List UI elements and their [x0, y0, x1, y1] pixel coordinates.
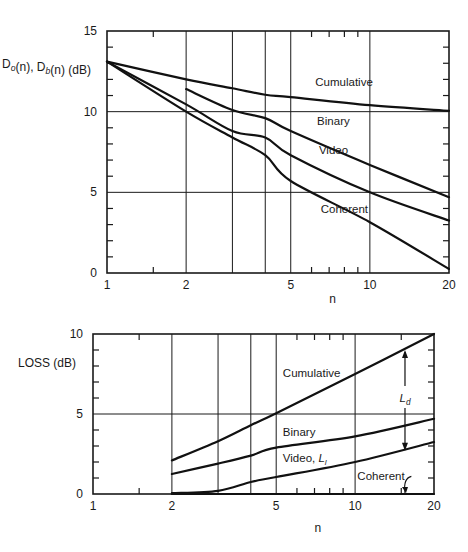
curve-label: Coherent	[321, 203, 369, 215]
x-tick-label: 5	[287, 278, 294, 292]
series-video	[107, 62, 449, 221]
x-tick-label: 2	[169, 499, 176, 513]
x-axis-label: n	[315, 521, 322, 535]
curve-label: Video	[319, 144, 348, 156]
x-tick-label: 1	[104, 278, 111, 292]
series-video-l-l	[172, 442, 434, 493]
x-tick-label: 10	[348, 499, 362, 513]
x-tick-label: 10	[363, 278, 377, 292]
series-cumulative	[107, 62, 449, 111]
y-tick-label: 15	[84, 24, 98, 38]
y-tick-label: 10	[70, 327, 84, 341]
chart-figure: 1251020051015nDo(n), Db(n) (dB)Cumulativ…	[0, 0, 468, 552]
x-tick-label: 5	[273, 499, 280, 513]
x-tick-label: 2	[183, 278, 190, 292]
plot-frame	[107, 31, 449, 273]
x-tick-label: 1	[90, 499, 97, 513]
curve-label: Binary	[317, 115, 350, 127]
y-tick-label: 5	[76, 407, 83, 421]
y-axis-label: LOSS (dB)	[18, 356, 76, 370]
y-tick-label: 10	[84, 105, 98, 119]
curve-label: Video, Ll	[283, 452, 327, 467]
curve-label: Cumulative	[315, 76, 373, 88]
figure: 1251020051015nDo(n), Db(n) (dB)Cumulativ…	[0, 0, 468, 552]
arrow-up-icon	[402, 350, 408, 358]
series-binary	[186, 89, 449, 197]
x-axis-label: n	[329, 292, 336, 306]
y-tick-label: 0	[90, 266, 97, 280]
y-tick-label: 0	[76, 487, 83, 501]
x-tick-label: 20	[442, 278, 456, 292]
chart-loss: 12510200510nLOSS (dB)CumulativeBinaryVid…	[18, 327, 441, 535]
y-tick-label: 5	[90, 185, 97, 199]
chart-directivity: 1251020051015nDo(n), Db(n) (dB)Cumulativ…	[2, 24, 456, 306]
curve-label: Cumulative	[283, 367, 341, 379]
series-coherent	[107, 62, 449, 269]
curve-label: Binary	[283, 426, 316, 438]
y-axis-label: Do(n), Db(n) (dB)	[2, 57, 91, 77]
series-cumulative	[172, 334, 434, 460]
ld-label: Ld	[399, 392, 410, 407]
curve-label: Coherent	[357, 470, 405, 482]
x-tick-label: 20	[427, 499, 441, 513]
